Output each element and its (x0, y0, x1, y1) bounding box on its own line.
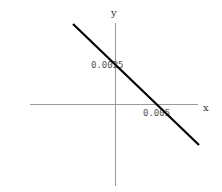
data-line (73, 24, 199, 145)
chart: y x 0.0025 0.005 (0, 0, 222, 192)
y-axis-label: y (110, 7, 117, 18)
x-axis-label: x (203, 102, 209, 113)
